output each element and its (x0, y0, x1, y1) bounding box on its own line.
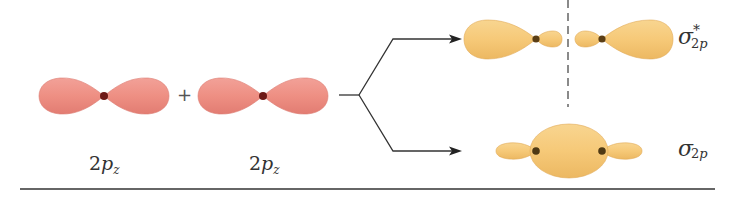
antibonding-nucleus-right (598, 35, 605, 42)
antibonding-big-lobe-left (464, 20, 536, 59)
ao-left-label-sub: z (113, 163, 119, 177)
antibonding-big-lobe-right (602, 20, 673, 59)
bonding-central-lobe (530, 124, 608, 178)
antibonding-small-lobe-right (575, 31, 602, 47)
ao-right-lobe-right (263, 78, 328, 114)
antibonding-label-sub: 2p (691, 36, 708, 51)
ao-left-lobe-right (104, 78, 169, 114)
ao-right-label: 2pz (249, 152, 280, 177)
ao-right-nucleus (259, 92, 267, 100)
bonding-nucleus-right (598, 147, 606, 155)
ao-left-label: 2pz (89, 152, 120, 177)
ao-left-label-p: p (101, 152, 113, 174)
antibonding-small-lobe-left (536, 31, 562, 47)
ao-left-nucleus (100, 92, 108, 100)
atomic-orbital-right (198, 78, 328, 114)
antibonding-label: σ * 2p (678, 24, 693, 49)
ao-left-lobe-left (39, 78, 104, 114)
bonding-label: σ 2p (678, 136, 693, 161)
plus-operator: + (177, 84, 192, 105)
bonding-nucleus-left (532, 147, 540, 155)
arrow-to-antibonding (359, 39, 452, 95)
mo-diagram: + 2pz 2pz σ * 2p σ 2p (0, 0, 732, 200)
ao-right-label-p: p (261, 152, 273, 174)
atomic-orbital-left (39, 78, 169, 114)
bonding-orbital (496, 124, 642, 178)
ao-right-label-num: 2 (249, 152, 261, 174)
antibonding-nucleus-left (532, 35, 539, 42)
bonding-label-sub: 2p (691, 146, 708, 161)
ao-right-label-sub: z (273, 163, 279, 177)
arrow-to-bonding (359, 95, 452, 151)
ao-left-label-num: 2 (89, 152, 101, 174)
splitting-arrows (339, 39, 452, 151)
ao-right-lobe-left (198, 78, 263, 114)
